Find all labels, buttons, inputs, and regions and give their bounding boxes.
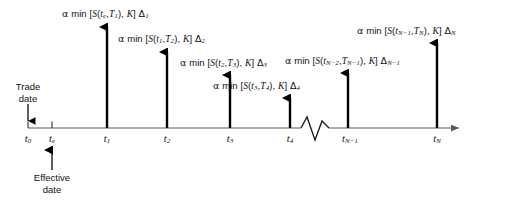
tick-label-tN-1: tN−1: [342, 133, 358, 145]
tick-label-te-sub: e: [52, 137, 55, 145]
payoff-label-t3: α min [S(t2,T3), K] Δ3: [180, 57, 267, 70]
tick-label-t0-sub: 0: [28, 137, 32, 145]
trade-date-line2: date: [16, 93, 40, 105]
payoff-fn-4: min: [222, 80, 238, 91]
payoff-close-1: ]: [133, 8, 136, 19]
payoff-deltasub-3: 3: [264, 61, 268, 68]
tick-label-tN-sub: N: [436, 137, 441, 145]
payoff-deltasub-4: 4: [297, 84, 301, 91]
payoff-arg1sub-N-1: N−2: [326, 59, 339, 66]
payoff-label-t1: α min [S(te,T1), K] Δ1: [62, 8, 149, 21]
tick-label-t3-sub: 3: [230, 137, 234, 145]
payoff-alpha-2: α: [118, 33, 124, 44]
payoff-label-t4: α min [S(t3,T4), K] Δ4: [213, 80, 300, 93]
payoff-comma2-N-1: ,: [363, 55, 366, 66]
payoff-alpha-N-1: α: [285, 55, 291, 66]
payoff-label-tN: α min [S(tN−1,TN), K] ΔN: [357, 25, 456, 38]
payoff-arg2sub-N-1: N−1: [347, 59, 360, 66]
trade-date-line1: Trade: [16, 81, 40, 93]
payoff-comma2-1: ,: [121, 8, 124, 19]
payoff-fn-N: min: [366, 25, 382, 36]
tick-label-t4-sub: 4: [290, 137, 294, 145]
payoff-fn-3: min: [189, 57, 205, 68]
payoff-fn-1: min: [71, 8, 87, 19]
payoff-close-4: ]: [284, 80, 287, 91]
payoff-arg1sub-N: N−1: [398, 29, 411, 36]
axis-ticks: [28, 122, 437, 129]
payoff-deltasub-N-1: N−1: [387, 59, 400, 66]
tick-label-t2: t2: [164, 133, 170, 145]
payoff-fn-2: min: [127, 33, 143, 44]
payoff-alpha-N: α: [357, 25, 363, 36]
effective-date-annotation: Effective date: [34, 172, 70, 195]
tick-label-tN-1-sub: N−1: [345, 137, 358, 145]
payoff-fn-N-1: min: [294, 55, 310, 66]
payoff-comma2-3: ,: [240, 57, 243, 68]
tick-label-tN: tN: [433, 133, 441, 145]
payoff-close-2: ]: [189, 33, 192, 44]
tick-label-te: te: [49, 133, 55, 145]
tick-label-t0: t0: [25, 133, 31, 145]
payoff-delta-3: Δ: [257, 57, 264, 68]
payoff-label-tN-1: α min [S(tN−2,TN−1), K] ΔN−1: [285, 55, 400, 68]
payoff-comma2-4: ,: [273, 80, 276, 91]
payoff-delta-2: Δ: [195, 33, 202, 44]
payoff-deltasub-2: 2: [202, 37, 206, 44]
payoff-deltasub-N: N: [451, 29, 456, 36]
payoff-delta-4: Δ: [290, 80, 297, 91]
payoff-close-3: ]: [251, 57, 254, 68]
payoff-alpha-1: α: [62, 8, 68, 19]
timeline-diagram: α min [S(te,T1), K] Δ1 α min [S(t1,T2), …: [0, 0, 513, 204]
payoff-close-N: ]: [439, 25, 442, 36]
payoff-deltasub-1: 1: [145, 12, 149, 19]
tick-label-t4: t4: [287, 133, 293, 145]
axis-break-zigzag-icon: [301, 117, 329, 140]
payoff-comma2-2: ,: [178, 33, 181, 44]
payoff-comma2-N: ,: [427, 25, 430, 36]
effective-date-line1: Effective: [34, 172, 70, 184]
tick-label-t1: t1: [104, 133, 110, 145]
payoff-close-N-1: ]: [375, 55, 378, 66]
tick-label-t1-sub: 1: [107, 137, 111, 145]
payoff-alpha-4: α: [213, 80, 219, 91]
effective-date-line2: date: [34, 184, 70, 196]
tick-label-t2-sub: 2: [167, 137, 171, 145]
payoff-alpha-3: α: [180, 57, 186, 68]
trade-date-annotation: Trade date: [16, 81, 40, 104]
tick-label-t3: t3: [227, 133, 233, 145]
payoff-label-t2: α min [S(t1,T2), K] Δ2: [118, 33, 205, 46]
